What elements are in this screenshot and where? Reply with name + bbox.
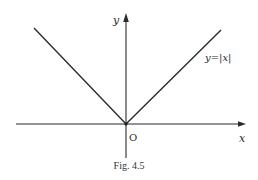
right-branch [126,30,221,124]
x-axis-label: x [239,132,246,145]
abs-value-graph: y x O y=|x| [0,0,258,180]
origin-label: O [129,132,137,143]
origin-point [124,122,127,125]
y-axis-label: y [112,14,120,27]
function-label: y=|x| [204,52,231,64]
figure-caption: Fig. 4.5 [0,160,258,171]
y-axis-arrow-icon [123,13,129,22]
x-axis-arrow-icon [238,121,246,127]
left-branch [34,28,126,124]
